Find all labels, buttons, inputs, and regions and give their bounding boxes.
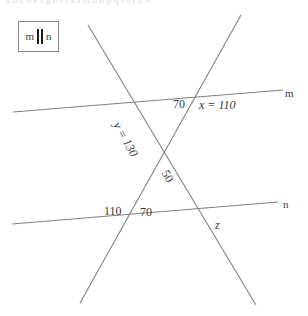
parallel-symbol-icon	[37, 29, 43, 44]
transversal-down-right	[88, 25, 256, 305]
angle-label-z: z	[215, 219, 220, 231]
legend-line-n-label: n	[46, 31, 52, 42]
geometry-figure: a b c d e f g h i j k l m n o p q r s t …	[0, 0, 308, 316]
legend-line-m-label: m	[25, 31, 34, 42]
angle-label-110-bottom: 110	[104, 205, 122, 217]
angle-label-70-bottom: 70	[140, 206, 152, 218]
angle-label-70-top: 70	[173, 98, 185, 110]
line-m-label: m	[285, 88, 294, 99]
transversal-up-right	[80, 15, 241, 303]
legend-content: m n	[19, 22, 58, 51]
line-m	[13, 90, 283, 112]
angle-label-x: x = 110	[199, 99, 236, 111]
parallel-legend-box: m n	[18, 21, 59, 52]
line-n-label: n	[283, 199, 289, 210]
